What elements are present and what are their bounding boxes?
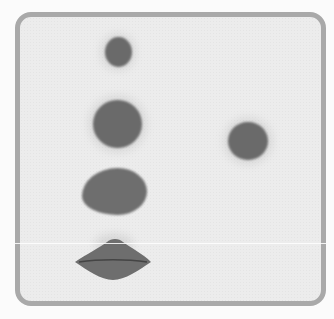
spot-3-teardrop [82,168,147,215]
spot-5-round-right [228,122,268,160]
plate [15,12,326,306]
scan-line-artifact [15,243,326,244]
spot-2-round [93,100,142,148]
spot-1-small-oval [105,37,132,67]
